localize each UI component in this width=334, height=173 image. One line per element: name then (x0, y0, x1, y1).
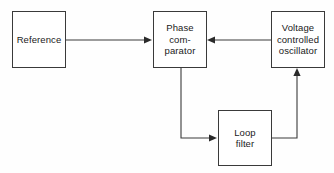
block-phase-comparator-line-2: com- (169, 34, 191, 46)
block-phase-comparator-line-3: parator (165, 45, 196, 57)
wire-loop-filter-to-vco (272, 68, 301, 138)
arrowhead-into-phase-comparator-left (144, 36, 152, 43)
block-phase-comparator-line-1: Phase (166, 22, 193, 34)
wire-reference-to-phase-comparator (66, 36, 152, 43)
block-phase-comparator[interactable]: Phase com- parator (153, 11, 207, 68)
block-voltage-controlled-oscillator[interactable]: Voltage controlled oscillator (271, 11, 325, 68)
wire-vco-to-phase-comparator (207, 36, 271, 43)
block-loop-filter[interactable]: Loop filter (218, 110, 272, 166)
block-reference-line-1: Reference (17, 34, 62, 46)
block-vco-line-1: Voltage (282, 22, 314, 34)
block-vco-line-3: oscillator (279, 45, 318, 57)
block-loop-filter-line-1: Loop (234, 127, 256, 139)
block-reference[interactable]: Reference (12, 11, 66, 68)
pll-block-diagram: Reference Phase com- parator Voltage con… (0, 0, 334, 173)
block-loop-filter-line-2: filter (236, 138, 255, 150)
arrowhead-into-loop-filter-left (209, 134, 217, 141)
block-vco-line-2: controlled (277, 34, 319, 46)
arrowhead-into-vco-bottom (293, 68, 300, 76)
arrowhead-into-phase-comparator-right (207, 36, 215, 43)
wire-phase-comparator-to-loop-filter (181, 68, 217, 142)
